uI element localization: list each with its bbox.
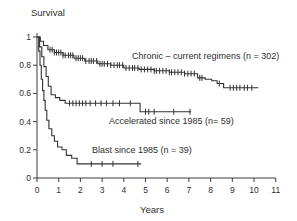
x-axis-tick-label: 11 (271, 185, 280, 195)
y-axis-tick-label: 0.8 (19, 60, 31, 70)
y-axis-title: Survival (31, 7, 65, 18)
x-axis-tick-label: 2 (78, 185, 83, 195)
y-axis-tick-label: 1 (26, 32, 31, 42)
y-axis-tick-label: 0 (26, 173, 31, 183)
x-axis-tick-label: 8 (208, 185, 213, 195)
x-axis-tick-label: 7 (187, 185, 192, 195)
x-axis-tick-label: 1 (56, 185, 61, 195)
survival-plot-svg: 00.20.40.60.8101234567891011 (0, 0, 297, 221)
y-axis-tick-label: 0.6 (19, 88, 31, 98)
x-axis-tick-label: 10 (249, 185, 259, 195)
series-label-accelerated: Accelerated since 1985 (n= 59) (109, 116, 234, 127)
series-label-chronic: Chronic – current regimens (n = 302) (132, 51, 279, 62)
series-label-blast: Blast since 1985 (n = 39) (92, 145, 192, 156)
x-axis-title: Years (32, 204, 272, 215)
y-axis-tick-label: 0.4 (19, 117, 31, 127)
x-axis-tick-label: 4 (121, 185, 126, 195)
x-axis-tick-label: 6 (165, 185, 170, 195)
y-axis-tick-label: 0.2 (19, 145, 31, 155)
survival-chart-figure: 00.20.40.60.8101234567891011 Survival Ch… (0, 0, 297, 221)
x-axis-tick-label: 3 (100, 185, 105, 195)
x-axis-tick-label: 5 (143, 185, 148, 195)
survival-curve-accelerated (37, 37, 191, 112)
x-axis-tick-label: 9 (230, 185, 235, 195)
survival-curve-chronic (37, 37, 258, 88)
x-axis-tick-label: 0 (35, 185, 40, 195)
